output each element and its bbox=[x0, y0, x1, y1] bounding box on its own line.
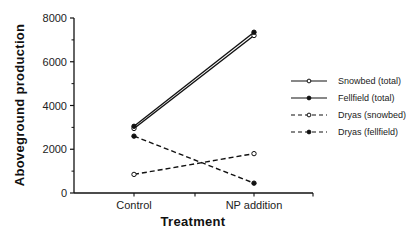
x-tick-label: Control bbox=[116, 199, 151, 211]
legend-label: Dryas (snowbed) bbox=[338, 110, 406, 120]
series-dryas-snowbed bbox=[132, 151, 256, 176]
y-tick-label: 6000 bbox=[43, 56, 67, 68]
x-tick-label: NP addition bbox=[226, 199, 283, 211]
legend-label: Dryas (fellfield) bbox=[338, 127, 398, 137]
x-axis-title: Treatment bbox=[161, 214, 226, 229]
series-group bbox=[132, 30, 256, 185]
series-fellfield-total bbox=[132, 30, 256, 128]
y-tick-label: 0 bbox=[61, 187, 67, 199]
legend: Snowbed (total)Fellfield (total)Dryas (s… bbox=[291, 76, 406, 137]
y-axis: 02000400060008000 bbox=[43, 12, 74, 199]
legend-item: Dryas (fellfield) bbox=[291, 127, 398, 137]
series-snowbed-total bbox=[132, 33, 256, 130]
x-axis: ControlNP addition bbox=[74, 193, 313, 211]
legend-item: Fellfield (total) bbox=[291, 93, 395, 103]
legend-item: Dryas (snowbed) bbox=[291, 110, 406, 120]
series-dryas-fellfield bbox=[132, 134, 256, 185]
legend-label: Fellfield (total) bbox=[338, 93, 395, 103]
legend-item: Snowbed (total) bbox=[291, 76, 401, 86]
line-chart: 02000400060008000 ControlNP addition Sno… bbox=[0, 0, 410, 239]
y-axis-title: Aboveground production bbox=[12, 24, 27, 187]
y-tick-label: 2000 bbox=[43, 143, 67, 155]
legend-label: Snowbed (total) bbox=[338, 76, 401, 86]
y-tick-label: 8000 bbox=[43, 12, 67, 24]
y-tick-label: 4000 bbox=[43, 100, 67, 112]
